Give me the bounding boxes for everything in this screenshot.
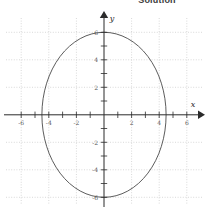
x-axis-arrow-icon: [198, 111, 205, 119]
chart-canvas: Solution: [0, 0, 208, 212]
coordinate-plane: -6 -4 -2 2 4 6 6 4 2 -2 -4 -6 x y: [0, 0, 208, 212]
y-tick-label-neg6: -6: [92, 194, 98, 201]
y-tick-label-neg2: -2: [92, 139, 98, 146]
x-tick-label-4: 4: [157, 119, 161, 126]
y-tick-label-neg4: -4: [92, 166, 98, 173]
y-tick-label-2: 2: [94, 84, 98, 91]
y-axis-label: y: [109, 14, 115, 23]
x-tick-label-neg4: -4: [46, 119, 52, 126]
y-axis-arrow-icon: [100, 11, 108, 18]
y-tick-label-4: 4: [94, 56, 98, 63]
x-tick-label-neg6: -6: [18, 119, 24, 126]
x-tick-label-neg2: -2: [73, 119, 79, 126]
x-tick-label-2: 2: [130, 119, 134, 126]
x-tick-label-6: 6: [185, 119, 189, 126]
x-axis-label: x: [191, 100, 196, 109]
y-tick-label-6: 6: [94, 29, 98, 36]
